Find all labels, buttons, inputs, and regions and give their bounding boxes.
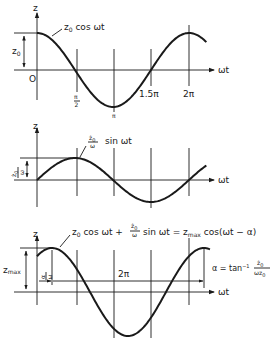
tick-pi-half: π 2 <box>74 93 80 108</box>
curve-leader <box>52 29 62 36</box>
svg-text:α: α <box>39 275 46 279</box>
phase-label: α ω <box>39 272 54 280</box>
panel-sin: z ωt ż0 ω ż0 ω sin ωt <box>10 121 230 208</box>
panel-sum: z ωt zmax α ω 2π z0 cos ωt + ż0 ω sin ωt… <box>3 222 270 338</box>
curve-label: ż0 ω sin ωt <box>88 134 132 149</box>
amplitude-label: z0 <box>12 46 21 57</box>
alpha-definition: α = tan−1 ż0 ωz0 <box>212 259 270 278</box>
vibration-diagram: z ωt O z0 z0 cos ωt π 2 π 1.5π 2π z ωt ż… <box>0 0 272 344</box>
curve-leader <box>80 146 86 157</box>
svg-text:ω: ω <box>132 231 137 238</box>
svg-text:ωz0: ωz0 <box>254 269 265 278</box>
svg-text:ω: ω <box>18 170 25 175</box>
x-axis-label: ωt <box>218 287 230 297</box>
x-axis-label: ωt <box>218 175 230 185</box>
amplitude-label: zmax <box>3 265 21 275</box>
svg-text:ż0: ż0 <box>131 222 137 231</box>
svg-text:ω: ω <box>46 274 53 279</box>
svg-text:π: π <box>74 93 78 100</box>
tick-1-5pi: 1.5π <box>139 89 159 99</box>
svg-text:sin ωt: sin ωt <box>105 136 132 146</box>
z-axis-label: z <box>33 121 38 131</box>
origin-label: O <box>29 74 36 84</box>
svg-text:ż0: ż0 <box>257 259 263 268</box>
equation-label: z0 cos ωt + ż0 ω sin ωt = zmax cos(ωt − … <box>72 222 256 238</box>
svg-text:z0 cos ωt +: z0 cos ωt + <box>72 227 123 238</box>
svg-text:ω: ω <box>90 142 95 149</box>
tick-2pi: 2π <box>183 89 195 99</box>
svg-text:sin ωt = zmax cos(ωt − α): sin ωt = zmax cos(ωt − α) <box>143 227 256 238</box>
svg-text:α = tan−1: α = tan−1 <box>212 263 250 273</box>
period-label: 2π <box>118 269 130 279</box>
z-axis-label: z <box>33 3 38 13</box>
curve-leader <box>60 235 70 247</box>
amplitude-label: ż0 ω <box>10 167 25 178</box>
curve-label: z0 cos ωt <box>64 22 105 33</box>
panel-cos: z ωt O z0 z0 cos ωt π 2 π 1.5π 2π <box>12 3 230 119</box>
tick-pi: π <box>112 112 116 119</box>
z-axis-label: z <box>33 229 38 239</box>
x-axis-label: ωt <box>218 65 230 75</box>
svg-text:2: 2 <box>75 101 79 108</box>
